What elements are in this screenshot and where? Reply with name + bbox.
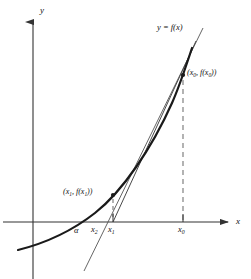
- tick-label-x2-sub: 2: [95, 229, 98, 235]
- point-label-x0-end: )): [211, 68, 216, 77]
- point-marker-x1: [111, 193, 115, 197]
- newton-raphson-figure: y x y = f(x) (x0, f(x0)) (x1, f(x1)) α x…: [0, 0, 251, 279]
- point-label-x1-sub1: 1: [69, 191, 72, 197]
- tick-label-x1-sub: 1: [112, 229, 115, 235]
- x-axis-label: x: [236, 217, 240, 226]
- tangent-line-at-x0: [113, 41, 196, 222]
- tick-label-x0-sub: 0: [182, 229, 185, 235]
- curve-label: y = f(x): [157, 23, 183, 32]
- figure-canvas: [0, 0, 251, 279]
- tick-label-x0: x0: [178, 225, 185, 234]
- function-curve: [18, 48, 192, 250]
- point-label-x1-sub2: 1: [84, 191, 87, 197]
- point-label-x1-end: )): [87, 187, 92, 196]
- point-marker-x0: [181, 73, 185, 77]
- point-label-x0-mid: , f(x: [196, 68, 208, 77]
- point-label-x0-sub2: 0: [208, 72, 211, 78]
- point-label-x1-mid: , f(x: [72, 187, 84, 196]
- point-label-x1: (x1, f(x1)): [63, 188, 92, 196]
- tick-label-alpha: α: [74, 226, 78, 235]
- point-label-x0-sub1: 0: [193, 72, 196, 78]
- tick-label-x1: x1: [108, 225, 115, 234]
- y-axis-label: y: [40, 6, 44, 15]
- tick-label-x2: x2: [91, 225, 98, 234]
- point-label-x0: (x0, f(x0)): [187, 69, 216, 77]
